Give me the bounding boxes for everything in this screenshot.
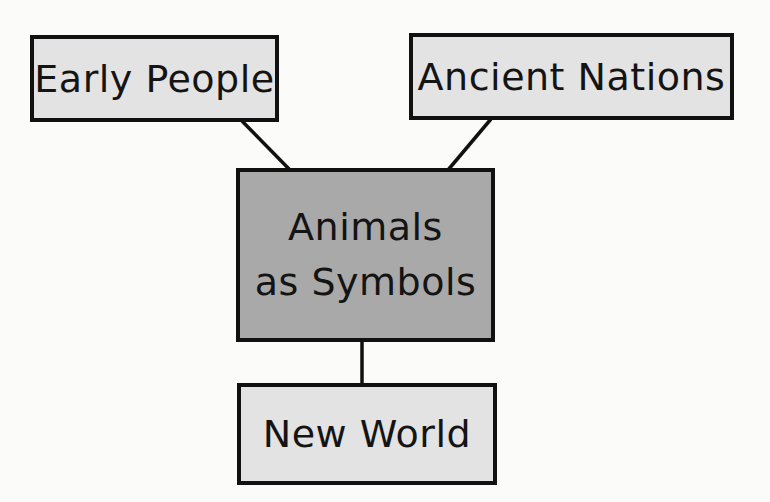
node-ancient-nations-label: Ancient Nations <box>418 55 726 99</box>
center-node-label-line1: Animals <box>288 200 443 255</box>
node-animals-as-symbols: Animals as Symbols <box>236 168 495 342</box>
center-node-label-line2: as Symbols <box>255 255 477 310</box>
node-early-people-label: Early People <box>34 57 274 101</box>
node-ancient-nations: Ancient Nations <box>409 33 734 120</box>
connector-early-people <box>242 121 290 170</box>
connector-ancient-nations <box>448 119 491 170</box>
node-early-people: Early People <box>30 35 279 122</box>
node-new-world-label: New World <box>263 412 471 456</box>
node-new-world: New World <box>237 383 497 485</box>
concept-web-diagram: Early People Ancient Nations Animals as … <box>0 0 770 502</box>
